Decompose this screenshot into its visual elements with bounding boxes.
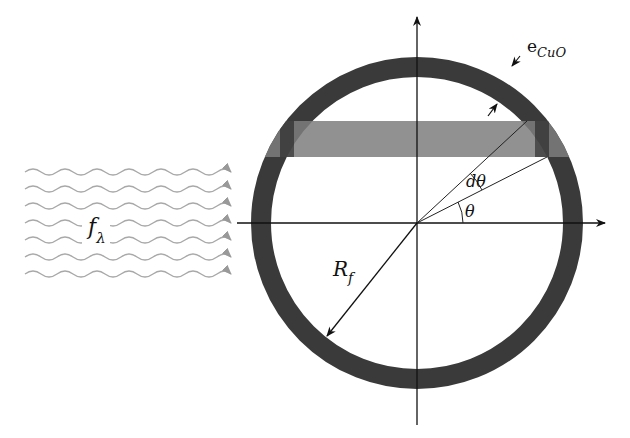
dtheta-label: dθ — [466, 172, 486, 191]
wave-3 — [25, 203, 231, 209]
wave-6 — [25, 254, 231, 260]
thickness-arrow-outer — [512, 56, 520, 66]
wave-5 — [25, 237, 231, 243]
radius-label: Rf — [332, 257, 356, 286]
wave-7 — [25, 271, 231, 277]
cylinder-diagram: fλ θ dθ Rf eCuO — [0, 0, 630, 438]
incident-flux-waves — [25, 169, 231, 277]
theta-arc — [458, 202, 463, 223]
wave-2 — [25, 186, 231, 192]
wave-4 — [25, 220, 231, 226]
theta-label: θ — [465, 202, 475, 221]
thickness-label: eCuO — [527, 36, 566, 60]
wave-1 — [25, 169, 231, 175]
thickness-arrow-inner — [488, 104, 497, 116]
